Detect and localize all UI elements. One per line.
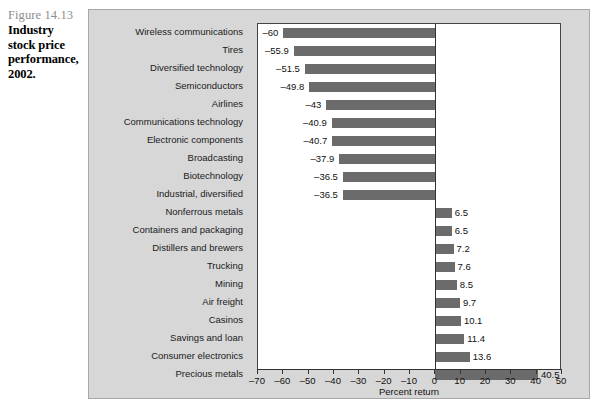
bar-value-label: 10.1 <box>464 314 483 328</box>
bar-value-label: –37.9 <box>311 152 335 166</box>
table-row: 6.5 <box>258 222 560 240</box>
bar <box>332 136 435 146</box>
bar <box>343 172 435 182</box>
table-row: –40.7 <box>258 132 560 150</box>
table-row: 11.4 <box>258 330 560 348</box>
category-label: Nonferrous metals <box>89 203 249 221</box>
x-axis-tick <box>358 369 359 374</box>
table-row: –49.8 <box>258 78 560 96</box>
table-row: 9.7 <box>258 294 560 312</box>
table-row: –36.5 <box>258 168 560 186</box>
x-axis-tick <box>308 369 309 374</box>
bar-value-label: 6.5 <box>455 206 468 220</box>
bar-value-label: –60 <box>262 26 278 40</box>
figure-number: Figure 14.13 <box>8 8 84 23</box>
category-label: Wireless communications <box>89 23 249 41</box>
bar <box>435 208 451 218</box>
category-label: Precious metals <box>89 365 249 383</box>
chart-panel: Wireless communicationsTiresDiversified … <box>88 9 590 399</box>
category-label: Savings and loan <box>89 329 249 347</box>
bar <box>435 262 454 272</box>
x-axis-tick <box>485 369 486 374</box>
bar <box>435 334 464 344</box>
table-row: –51.5 <box>258 60 560 78</box>
bar-value-label: –40.7 <box>303 134 327 148</box>
table-row: –40.9 <box>258 114 560 132</box>
bar <box>332 118 436 128</box>
bar <box>435 280 457 290</box>
figure-caption: Figure 14.13 Industry stock price perfor… <box>8 8 84 82</box>
x-axis-tick <box>510 369 511 374</box>
x-axis-tick <box>460 369 461 374</box>
category-label: Air freight <box>89 293 249 311</box>
category-label: Biotechnology <box>89 167 249 185</box>
bar-value-label: 8.5 <box>460 278 473 292</box>
category-label: Trucking <box>89 257 249 275</box>
bar <box>309 82 435 92</box>
bar-value-label: 7.2 <box>457 242 470 256</box>
table-row: 10.1 <box>258 312 560 330</box>
x-axis-tick <box>282 369 283 374</box>
bar-value-label: 7.6 <box>458 260 471 274</box>
category-label: Distillers and brewers <box>89 239 249 257</box>
bar-value-label: 11.4 <box>467 332 485 346</box>
bar-value-label: 9.7 <box>463 296 476 310</box>
bar-chart: Wireless communicationsTiresDiversified … <box>89 10 591 400</box>
x-axis-tick <box>409 369 410 374</box>
table-row: –37.9 <box>258 150 560 168</box>
x-axis-tick <box>384 369 385 374</box>
bar-value-label: 13.6 <box>473 350 492 364</box>
bar <box>343 190 435 200</box>
category-label: Tires <box>89 41 249 59</box>
x-axis-tick <box>257 369 258 374</box>
table-row: 13.6 <box>258 348 560 366</box>
bar-value-label: –55.9 <box>265 44 289 58</box>
x-axis-tick-label: 50 <box>546 375 576 386</box>
bar <box>305 64 435 74</box>
bar-value-label: –36.5 <box>314 170 338 184</box>
table-row: 7.2 <box>258 240 560 258</box>
category-label: Broadcasting <box>89 149 249 167</box>
category-label: Airlines <box>89 95 249 113</box>
bar <box>435 316 461 326</box>
table-row: –43 <box>258 96 560 114</box>
bar-value-label: –40.9 <box>303 116 327 130</box>
x-axis-title: Percent return <box>257 386 561 397</box>
x-axis-tick <box>434 369 435 374</box>
bar <box>435 298 460 308</box>
bar-value-label: 6.5 <box>455 224 468 238</box>
x-axis-tick <box>536 369 537 374</box>
category-axis-labels: Wireless communicationsTiresDiversified … <box>89 23 249 383</box>
zero-axis-line <box>435 24 436 369</box>
bar <box>326 100 435 110</box>
category-label: Containers and packaging <box>89 221 249 239</box>
bar <box>339 154 435 164</box>
bar <box>435 352 469 362</box>
bar-value-label: –49.8 <box>280 80 304 94</box>
x-axis-tick <box>333 369 334 374</box>
bar-value-label: –51.5 <box>276 62 300 76</box>
x-axis-tick <box>561 369 562 374</box>
category-label: Diversified technology <box>89 59 249 77</box>
category-label: Electronic components <box>89 131 249 149</box>
category-label: Mining <box>89 275 249 293</box>
bar <box>283 28 435 38</box>
table-row: –36.5 <box>258 186 560 204</box>
category-label: Industrial, diversified <box>89 185 249 203</box>
table-row: –60 <box>258 24 560 42</box>
bar-series: –60–55.9–51.5–49.8–43–40.9–40.7–37.9–36.… <box>258 24 560 369</box>
figure-title: Industry stock price performance, 2002. <box>8 23 84 82</box>
x-axis: –70–60–50–40–30–20–1001020304050 <box>257 369 561 370</box>
bar <box>435 244 453 254</box>
category-label: Semiconductors <box>89 77 249 95</box>
bar <box>294 46 436 56</box>
bar <box>435 226 451 236</box>
table-row: –55.9 <box>258 42 560 60</box>
table-row: 8.5 <box>258 276 560 294</box>
category-label: Communications technology <box>89 113 249 131</box>
table-row: 7.6 <box>258 258 560 276</box>
category-label: Casinos <box>89 311 249 329</box>
category-label: Consumer electronics <box>89 347 249 365</box>
bar-value-label: –36.5 <box>314 188 338 202</box>
table-row: 6.5 <box>258 204 560 222</box>
